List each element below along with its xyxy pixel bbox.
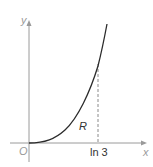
curve — [29, 24, 107, 143]
x-tick-ln3: ln 3 — [90, 146, 108, 158]
y-axis — [27, 20, 32, 162]
x-axis-label: x — [142, 146, 149, 158]
origin-label: O — [19, 145, 28, 157]
x-axis-arrow-icon — [141, 141, 147, 146]
y-axis-arrow-icon — [27, 20, 32, 26]
region-label: R — [79, 120, 87, 132]
y-axis-label: y — [20, 14, 28, 26]
graph-figure: y x O R ln 3 — [0, 0, 153, 167]
